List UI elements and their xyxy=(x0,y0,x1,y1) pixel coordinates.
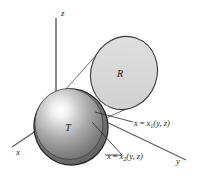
x-axis-label: x xyxy=(15,147,20,157)
surface-label-x2-text: x=x2(y, z) xyxy=(106,151,143,162)
region-R-label: R xyxy=(116,68,123,79)
diagram-canvas: R T z x y x=x1(y, z) x=x2(y, z) xyxy=(0,0,198,179)
surface-label-x2: x=x2(y, z) xyxy=(106,151,143,162)
y-axis-label: y xyxy=(175,156,180,166)
surface-label-x1: x=x1(y, z) xyxy=(133,118,170,129)
surface-label-x1-text: x=x1(y, z) xyxy=(133,118,170,129)
figure-container: R T z x y x=x1(y, z) x=x2(y, z) xyxy=(0,0,198,179)
z-axis-label: z xyxy=(60,8,65,18)
